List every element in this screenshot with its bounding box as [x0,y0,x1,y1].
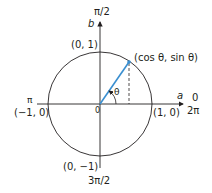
angle-theta-label: θ [114,87,120,97]
point-label-bottom: (0, −1) [63,161,98,172]
angle-label-right-bottom: 2π [187,105,199,116]
angle-label-bottom: 3π/2 [88,175,110,186]
point-on-circle [127,60,131,64]
point-label-left: (−1, 0) [14,107,49,118]
point-label-top: (0, 1) [71,39,98,50]
point-label-right: (1, 0) [153,107,180,118]
angle-label-top: π/2 [94,6,110,17]
angle-label-right-top: 0 [192,92,198,103]
vertical-axis-label: b [88,18,94,29]
horizontal-axis-label: a [177,90,183,101]
point-label-on-circle: (cos θ, sin θ) [134,52,198,63]
origin-label: 0 [95,106,100,115]
unit-circle-diagram: π/2 b (0, 1) (cos θ, sin θ) θ a 0 2π π (… [0,0,212,193]
angle-label-left: π [27,95,33,105]
